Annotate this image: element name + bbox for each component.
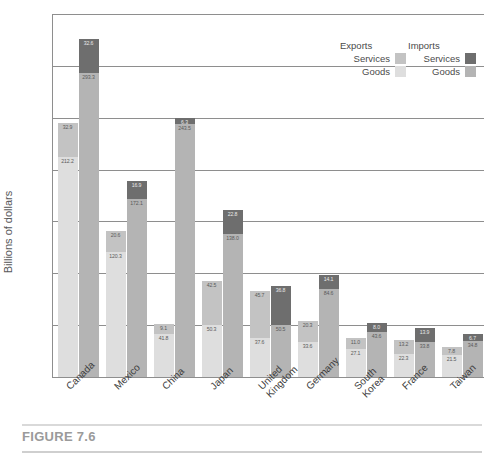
segment-label-exports-services: 20.3	[298, 322, 318, 328]
segment-exports-goods: 212.2	[58, 157, 78, 377]
segment-label-imports-services: 36.8	[271, 287, 291, 293]
segment-exports-goods: 50.3	[202, 325, 222, 377]
legend-item-imports-goods[interactable]: Goods	[406, 66, 476, 77]
segment-label-imports-goods: 50.5	[271, 326, 291, 332]
bar-imports[interactable]: 16.9172.1	[127, 181, 147, 377]
legend-item-imports-services[interactable]: Services	[406, 53, 476, 64]
segment-label-exports-services: 45.7	[250, 292, 270, 298]
segment-imports-services: 13.9	[415, 328, 435, 342]
segment-exports-services: 32.9	[58, 123, 78, 157]
figure-caption: FIGURE 7.6	[22, 429, 96, 444]
segment-label-exports-goods: 21.5	[442, 356, 462, 362]
segment-exports-services: 20.6	[106, 231, 126, 252]
caption-rule-top	[22, 424, 482, 426]
bar-exports[interactable]: 45.737.6	[250, 291, 270, 377]
segment-imports-services: 36.8	[271, 286, 291, 324]
legend-label-imports-services: Services	[424, 53, 460, 64]
legend-item-exports-goods[interactable]: Goods	[336, 66, 406, 77]
legend-swatch-imports-goods	[465, 66, 476, 77]
bar-exports[interactable]: 20.6120.3	[106, 231, 126, 377]
bar-imports[interactable]: 32.6293.3	[79, 39, 99, 377]
legend-swatch-imports-services	[465, 53, 476, 64]
segment-label-imports-services: 16.9	[127, 182, 147, 188]
legend-swatch-exports-goods	[395, 66, 406, 77]
segment-label-imports-services: 32.6	[79, 40, 99, 46]
segment-label-exports-goods: 212.2	[58, 158, 78, 164]
segment-label-imports-services: 14.1	[319, 276, 339, 282]
bar-group: 45.737.636.850.5	[250, 14, 291, 377]
segment-label-exports-services: 7.8	[442, 348, 462, 354]
segment-label-imports-goods: 84.6	[319, 290, 339, 296]
bar-exports[interactable]: 9.141.8	[154, 324, 174, 377]
segment-label-imports-goods: 172.1	[127, 200, 147, 206]
segment-exports-goods: 41.8	[154, 334, 174, 377]
segment-label-imports-services: 22.8	[223, 211, 243, 217]
segment-exports-goods: 120.3	[106, 252, 126, 377]
segment-label-imports-goods: 43.6	[367, 333, 387, 339]
bar-group: 20.333.614.184.6	[298, 14, 339, 377]
segment-label-imports-goods: 243.5	[175, 125, 195, 131]
segment-label-exports-services: 32.9	[58, 124, 78, 130]
bar-group: 42.550.322.8138.0	[202, 14, 243, 377]
legend-swatch-exports-services	[395, 53, 406, 64]
segment-imports-goods: 243.5	[175, 124, 195, 377]
bar-exports[interactable]: 42.550.3	[202, 281, 222, 377]
bar-exports[interactable]: 32.9212.2	[58, 123, 78, 377]
segment-label-exports-services: 42.5	[202, 282, 222, 288]
bar-group: 9.141.86.3243.5	[154, 14, 195, 377]
legend-row-services: Services Services	[336, 53, 476, 64]
segment-label-imports-services: 8.0	[367, 324, 387, 330]
segment-label-exports-goods: 120.3	[106, 253, 126, 259]
segment-imports-services: 22.8	[223, 210, 243, 234]
legend-label-imports-goods: Goods	[432, 66, 460, 77]
segment-label-exports-services: 13.2	[394, 341, 414, 347]
segment-imports-services: 16.9	[127, 181, 147, 199]
legend-label-exports-goods: Goods	[362, 66, 390, 77]
segment-imports-services: 14.1	[319, 275, 339, 290]
legend-group-exports-title: Exports	[336, 40, 408, 51]
segment-label-exports-goods: 41.8	[154, 335, 174, 341]
legend-group-headers: Exports Imports	[336, 40, 476, 51]
segment-label-imports-goods: 138.0	[223, 235, 243, 241]
segment-label-exports-goods: 22.3	[394, 355, 414, 361]
segment-label-imports-goods: 293.3	[79, 74, 99, 80]
segment-imports-goods: 138.0	[223, 234, 243, 377]
segment-label-imports-services: 13.9	[415, 329, 435, 335]
segment-exports-services: 7.8	[442, 347, 462, 355]
segment-label-exports-goods: 27.1	[346, 350, 366, 356]
legend-item-exports-services[interactable]: Services	[336, 53, 406, 64]
segment-label-exports-goods: 37.6	[250, 339, 270, 345]
segment-exports-goods: 37.6	[250, 338, 270, 377]
segment-imports-services: 8.0	[367, 323, 387, 331]
segment-imports-goods: 293.3	[79, 73, 99, 377]
segment-imports-services: 32.6	[79, 39, 99, 73]
bar-exports[interactable]: 13.222.3	[394, 340, 414, 377]
segment-exports-services: 9.1	[154, 324, 174, 333]
segment-imports-goods: 172.1	[127, 199, 147, 377]
bar-imports[interactable]: 22.8138.0	[223, 210, 243, 377]
segment-exports-services: 13.2	[394, 340, 414, 354]
bar-exports[interactable]: 11.027.1	[346, 338, 366, 378]
segment-label-imports-goods: 33.8	[415, 343, 435, 349]
segment-exports-services: 20.3	[298, 321, 318, 342]
bar-group: 20.6120.316.9172.1	[106, 14, 147, 377]
segment-label-exports-services: 9.1	[154, 325, 174, 331]
segment-exports-services: 42.5	[202, 281, 222, 325]
segment-imports-services: 6.7	[463, 334, 483, 341]
segment-label-imports-goods: 34.8	[463, 342, 483, 348]
caption-rule-bottom	[22, 451, 482, 453]
bar-group: 32.9212.232.6293.3	[58, 14, 99, 377]
segment-label-exports-services: 20.6	[106, 232, 126, 238]
legend-group-imports-title: Imports	[408, 40, 476, 51]
segment-exports-services: 11.0	[346, 338, 366, 349]
bar-exports[interactable]: 20.333.6	[298, 321, 318, 377]
y-axis-line	[52, 14, 53, 377]
chart-legend: Exports Imports Services Services Goods …	[336, 40, 476, 77]
y-axis-title: Billions of dollars	[2, 190, 14, 273]
bar-imports[interactable]: 6.3243.5	[175, 118, 195, 377]
figure-container: 05010015020025030035032.9212.232.6293.32…	[0, 0, 500, 463]
segment-exports-services: 45.7	[250, 291, 270, 338]
segment-label-exports-goods: 50.3	[202, 326, 222, 332]
segment-label-exports-goods: 33.6	[298, 343, 318, 349]
legend-row-goods: Goods Goods	[336, 66, 476, 77]
